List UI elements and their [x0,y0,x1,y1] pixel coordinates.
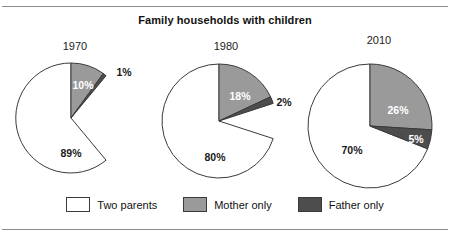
slice-value-mother-only-2010: 26% [387,104,409,116]
slice-value-mother-only-1980: 18% [229,90,251,102]
legend-swatch-father-only [298,197,322,212]
slice-value-two-parents-1970: 89% [60,147,82,159]
legend-swatch-two-parents [66,197,90,212]
top-divider [2,6,448,7]
legend-item-mother-only: Mother only [183,197,271,212]
slice-mother-only-2010 [370,64,432,130]
page-title: Family households with children [0,14,450,26]
pie-chart-1980: 80% 18% 2% [160,62,288,184]
slice-value-father-only-1970: 1% [116,66,132,78]
legend-label-two-parents: Two parents [97,199,157,211]
pie-chart-2010: 70% 26% 5% [306,62,442,192]
legend-swatch-mother-only [183,197,207,212]
slice-value-mother-only-1970: 10% [72,79,94,91]
legend-label-father-only: Father only [329,199,384,211]
pie-year-label-1980: 1980 [168,40,284,52]
slice-value-father-only-1980: 2% [276,96,292,108]
pie-chart-1970: 89% 10% 1% [14,60,138,180]
slice-value-two-parents-1980: 80% [204,151,226,163]
chart-page: Family households with children 1970 89%… [0,0,450,241]
slice-value-father-only-2010: 5% [408,133,424,145]
legend-item-father-only: Father only [298,197,384,212]
pie-year-label-1970: 1970 [20,40,130,52]
legend-item-two-parents: Two parents [66,197,157,212]
slice-value-two-parents-2010: 70% [341,144,363,156]
bottom-divider [2,229,448,230]
legend-label-mother-only: Mother only [214,199,271,211]
pie-year-label-2010: 2010 [316,34,442,46]
chart-legend: Two parents Mother only Father only [0,197,450,212]
